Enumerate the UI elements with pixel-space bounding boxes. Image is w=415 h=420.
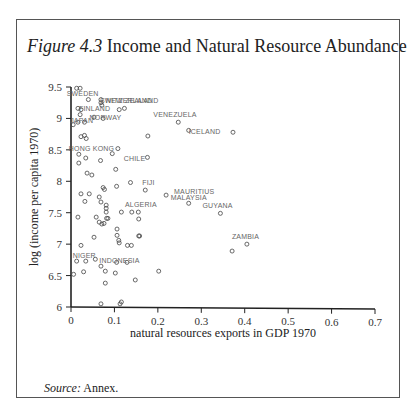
country-label: ALGERIA: [125, 201, 157, 208]
country-label: CHILE: [124, 155, 146, 162]
data-point: [230, 249, 234, 253]
country-label: VENEZUELA: [153, 111, 197, 118]
country-label: NIGER: [73, 252, 96, 259]
data-point: [130, 210, 134, 214]
data-point: [145, 155, 149, 159]
country-label: HONG KONG: [69, 145, 114, 152]
y-tick-label: 8: [57, 175, 63, 187]
data-point: [99, 200, 103, 204]
data-point: [85, 171, 89, 175]
data-point: [143, 188, 147, 192]
country-label: INDONESIA: [99, 257, 139, 264]
data-point: [87, 192, 91, 196]
x-tick-label: 0.1: [108, 314, 122, 326]
data-point: [76, 215, 80, 219]
data-point: [128, 181, 132, 185]
data-point: [90, 173, 94, 177]
data-point: [99, 302, 103, 306]
data-point: [99, 264, 103, 268]
x-axis: 00.10.20.30.40.50.60.7: [68, 307, 382, 328]
data-point: [86, 98, 90, 102]
scatter-plot: 66.577.588.599.5 00.10.20.30.40.50.60.7 …: [0, 0, 415, 420]
country-label: MALAYSIA: [171, 194, 207, 201]
data-point: [137, 217, 141, 221]
data-point: [79, 192, 83, 196]
data-point: [125, 243, 129, 247]
data-point: [103, 269, 107, 273]
country-label: NORWAY: [90, 114, 122, 121]
data-point: [82, 270, 86, 274]
country-label: NEW ZEALAND: [106, 97, 159, 104]
data-point: [187, 201, 191, 205]
source-text: Annex.: [81, 381, 118, 395]
country-label: FINLAND: [79, 105, 110, 112]
data-point: [103, 281, 107, 285]
source-label: Source:: [44, 381, 81, 395]
data-point: [117, 241, 121, 245]
y-tick-label: 6: [57, 301, 63, 313]
source-note: Source: Annex.: [44, 381, 118, 396]
data-point: [122, 106, 126, 110]
country-label: ZAMBIA: [232, 233, 259, 240]
country-label: SWEDEN: [67, 90, 99, 97]
y-axis-label: log (income per capita 1970): [27, 128, 41, 267]
country-label: GUYANA: [202, 202, 232, 209]
x-axis-label: natural resources exports in GDP 1970: [130, 326, 316, 340]
x-tick-label: 0.7: [368, 316, 382, 328]
data-point: [218, 211, 222, 215]
x-tick-label: 0: [68, 314, 74, 326]
data-point: [157, 269, 161, 273]
data-point: [99, 159, 103, 163]
country-label: ICELAND: [189, 128, 221, 135]
data-point: [77, 161, 81, 165]
data-point: [97, 195, 101, 199]
y-tick-label: 9: [57, 112, 63, 124]
y-axis: 66.577.588.599.5: [48, 81, 71, 313]
data-point: [84, 259, 88, 263]
data-point: [114, 167, 118, 171]
x-tick-label: 0.6: [325, 316, 339, 328]
country-label: JAPAN: [70, 117, 93, 124]
data-point: [92, 235, 96, 239]
data-point: [164, 193, 168, 197]
data-point: [83, 199, 87, 203]
data-point: [75, 259, 79, 263]
data-point: [231, 130, 235, 134]
data-point: [245, 242, 249, 246]
data-point: [94, 215, 98, 219]
data-point: [176, 120, 180, 124]
data-point: [119, 210, 123, 214]
x-tick-label: 0.2: [151, 315, 165, 327]
data-point: [115, 233, 119, 237]
data-point: [84, 137, 88, 141]
data-point: [113, 271, 117, 275]
data-point: [115, 184, 119, 188]
y-tick-label: 7.5: [48, 207, 62, 219]
country-label: FIJI: [142, 179, 154, 186]
data-point: [84, 156, 88, 160]
y-tick-label: 6.5: [48, 270, 62, 282]
data-point: [79, 243, 83, 247]
data-point: [116, 147, 120, 151]
data-point: [77, 152, 81, 156]
data-point: [72, 272, 76, 276]
data-point: [136, 210, 140, 214]
data-point: [146, 134, 150, 138]
data-point: [115, 227, 119, 231]
y-axis-label-tick-mark: ': [31, 255, 33, 267]
y-tick-label: 7: [57, 238, 63, 250]
data-point: [129, 243, 133, 247]
data-point: [110, 152, 114, 156]
data-point: [117, 108, 121, 112]
y-tick-label: 9.5: [48, 81, 62, 93]
y-tick-label: 8.5: [48, 144, 62, 156]
data-point: [133, 278, 137, 282]
